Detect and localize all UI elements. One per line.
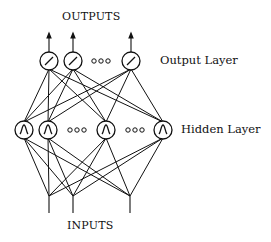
ellipsis-dot xyxy=(126,128,130,132)
ellipsis-dot xyxy=(75,128,79,132)
output-node xyxy=(64,52,82,70)
arrowhead-icon xyxy=(47,33,51,38)
arrowhead-icon xyxy=(71,33,75,38)
output-node xyxy=(40,52,58,70)
ellipsis-dot xyxy=(92,59,96,63)
ellipsis-dot xyxy=(140,128,144,132)
edge-line xyxy=(48,138,49,196)
input-lines xyxy=(49,196,130,213)
outputs-label: OUTPUTS xyxy=(62,10,120,23)
edge-line xyxy=(24,69,49,122)
edge-line xyxy=(49,138,163,196)
ellipsis-dot xyxy=(133,128,137,132)
hidden-node xyxy=(154,121,172,139)
inputs-label: INPUTS xyxy=(67,219,114,232)
output-layer-label: Output Layer xyxy=(160,53,238,67)
arrowhead-icon xyxy=(129,33,133,38)
ellipsis-dot xyxy=(82,128,86,132)
neural-network-diagram xyxy=(0,0,271,242)
output-node xyxy=(122,52,140,70)
edge-line xyxy=(24,138,49,196)
hidden-node xyxy=(15,121,33,139)
ellipsis-dot xyxy=(68,128,72,132)
nodes xyxy=(15,52,172,139)
hidden-node xyxy=(39,121,57,139)
ellipsis-dot xyxy=(99,59,103,63)
output-arrows xyxy=(47,33,133,52)
hidden-layer-label: Hidden Layer xyxy=(181,122,261,136)
ellipsis-dot xyxy=(106,59,110,63)
hidden-node xyxy=(97,121,115,139)
